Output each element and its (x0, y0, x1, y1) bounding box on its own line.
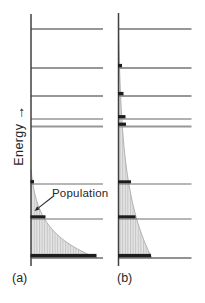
population-bar (118, 180, 131, 183)
population-bar (118, 115, 126, 118)
population-bar (31, 215, 46, 218)
population-bar (118, 215, 136, 218)
population-label: Population (52, 187, 108, 199)
panel-b-label: (b) (117, 271, 132, 285)
panel-a-label: (a) (12, 271, 27, 285)
population-bar (31, 254, 97, 257)
population-distribution-curve (119, 14, 153, 258)
population-bar (31, 180, 35, 183)
energy-axis-label-text: Energy (12, 124, 26, 166)
boltzmann-population-figure: Energy → Population (a) (b) (0, 0, 205, 303)
population-distribution-curve (31, 169, 97, 258)
panel-a (31, 14, 104, 266)
up-arrow-icon: → (10, 105, 26, 119)
diagram-canvas (0, 0, 205, 303)
panel-b (118, 13, 192, 266)
population-bar (118, 64, 122, 67)
population-bar (118, 92, 124, 95)
population-bar (118, 123, 126, 126)
population-annotation-line (38, 197, 53, 208)
population-bar (118, 254, 151, 257)
energy-axis-label: Energy → (10, 86, 25, 186)
